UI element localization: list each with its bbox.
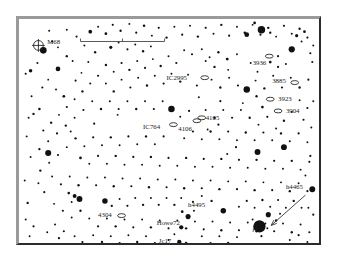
star-point: [280, 181, 282, 183]
star-point: [227, 242, 229, 243]
star-point: [180, 197, 182, 199]
star-point: [227, 69, 229, 71]
star-point: [271, 189, 273, 191]
pointer-arrow-icon: [271, 195, 305, 225]
star-point: [235, 146, 237, 148]
star-point: [275, 36, 277, 38]
star-point: [210, 200, 212, 202]
star-point: [266, 227, 268, 229]
star-point: [229, 221, 231, 223]
star-point: [255, 95, 257, 97]
star-point: [119, 30, 121, 32]
star-point: [56, 67, 61, 72]
star-point: [177, 240, 181, 243]
star-point: [26, 135, 28, 137]
star-point: [65, 124, 67, 126]
star-point: [24, 179, 26, 181]
star-point: [212, 221, 214, 223]
star-point: [126, 48, 128, 50]
star-point: [186, 214, 191, 219]
star-point: [210, 179, 212, 181]
star-point: [143, 25, 146, 28]
greek-star-label: β: [252, 222, 258, 232]
star-point: [88, 30, 92, 34]
star-point: [77, 184, 79, 186]
star-point: [173, 26, 175, 28]
star-point: [283, 25, 285, 27]
star-point: [259, 34, 261, 36]
star-point: [266, 116, 268, 118]
star-point: [269, 32, 271, 34]
star-point: [194, 221, 196, 223]
star-point: [277, 55, 279, 57]
star-point: [285, 63, 287, 65]
star-point: [54, 223, 56, 225]
star-point: [218, 138, 220, 140]
galaxy-ellipse-icon: [169, 123, 177, 127]
star-point: [105, 83, 107, 85]
star-point: [273, 230, 275, 232]
star-point: [47, 140, 49, 142]
star-point: [306, 107, 308, 109]
star-point: [277, 66, 279, 68]
star-point: [185, 227, 187, 229]
galaxy-ellipse-icon: [265, 54, 273, 58]
star-point: [306, 37, 308, 39]
star-point: [282, 168, 284, 170]
star-point: [176, 165, 178, 167]
star-point: [106, 218, 108, 220]
object-label: 4304: [98, 211, 112, 218]
object-label: 4105: [206, 114, 220, 121]
star-point: [48, 162, 50, 164]
star-point: [254, 139, 256, 141]
object-label: h4465: [286, 183, 304, 190]
star-point: [262, 131, 264, 133]
object-label: IC2995: [167, 74, 188, 81]
star-point: [173, 204, 175, 206]
star-point: [81, 241, 83, 243]
star-point: [308, 231, 310, 233]
star-point: [55, 88, 57, 90]
star-point: [157, 178, 159, 180]
star-point: [118, 108, 120, 110]
star-point: [266, 212, 271, 217]
star-point: [301, 207, 303, 209]
star-point: [209, 56, 211, 58]
star-point: [89, 83, 91, 85]
star-point: [66, 29, 68, 31]
star-point: [83, 44, 85, 46]
star-point: [81, 72, 83, 74]
star-point: [166, 197, 168, 199]
star-point: [71, 201, 73, 203]
star-point: [163, 82, 165, 84]
star-point: [306, 190, 308, 192]
star-point: [70, 131, 72, 133]
star-point: [79, 210, 81, 212]
star-point: [95, 184, 97, 186]
object-label: 4106: [178, 125, 192, 132]
star-point: [119, 144, 121, 146]
star-point: [304, 175, 306, 177]
object-label: IC764: [143, 123, 161, 130]
star-point: [47, 79, 49, 81]
star-point: [94, 51, 96, 53]
galaxy-ellipse-icon: [198, 116, 206, 120]
star-point: [159, 165, 161, 167]
star-point: [242, 102, 244, 104]
star-point: [88, 163, 90, 165]
star-point: [262, 181, 264, 183]
star-point: [29, 69, 33, 73]
star-point: [298, 132, 300, 134]
star-point: [163, 135, 165, 137]
star-point: [28, 117, 30, 119]
star-point: [222, 109, 224, 111]
star-point: [280, 132, 282, 134]
star-point: [145, 235, 147, 237]
star-point: [185, 242, 188, 243]
star-point: [245, 180, 247, 182]
star-point: [229, 167, 231, 169]
star-point: [221, 208, 226, 213]
star-point: [277, 199, 279, 201]
star-point: [312, 100, 314, 102]
star-point: [289, 140, 291, 142]
